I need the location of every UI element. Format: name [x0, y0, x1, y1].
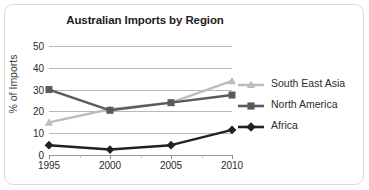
x-tickmark-2000	[110, 155, 111, 159]
series-south-east-asia	[45, 77, 236, 126]
legend-marker-triangle-icon	[238, 79, 264, 91]
x-tick-label-2005: 2005	[160, 160, 182, 171]
data-point-marker	[168, 99, 175, 106]
data-point-marker	[229, 92, 236, 99]
x-tickmark-2005	[171, 155, 172, 159]
x-tickmark-2010	[232, 155, 233, 159]
legend-label-north-america: North America	[271, 98, 338, 110]
x-tick-label-2000: 2000	[99, 160, 121, 171]
y-tick-label-0: 0	[38, 150, 44, 161]
series-africa	[45, 126, 237, 154]
y-tick-label-10: 10	[33, 128, 44, 139]
y-tick-label-50: 50	[33, 41, 44, 52]
legend-swatch-diamond-icon	[238, 119, 264, 131]
legend-label-africa: Africa	[271, 119, 298, 131]
x-tickmark-minor-1	[80, 155, 81, 158]
y-tick-label-40: 40	[33, 62, 44, 73]
series-line	[49, 81, 232, 122]
legend-label-south-east-asia: South East Asia	[271, 77, 345, 89]
legend-marker-diamond-icon	[238, 121, 264, 133]
legend-item-south-east-asia[interactable]: South East Asia	[238, 72, 362, 93]
data-point-marker	[106, 145, 115, 154]
plot-area: 50 40 30 20 10 0 1995 2000 2005 2010	[49, 46, 232, 155]
series-line	[49, 90, 232, 111]
legend-item-africa[interactable]: Africa	[238, 114, 362, 135]
y-tick-label-30: 30	[33, 84, 44, 95]
chart-title: Australian Imports by Region	[0, 14, 290, 26]
series-plot	[49, 46, 232, 155]
x-tickmark-1995	[49, 155, 50, 159]
x-tickmark-minor-2	[141, 155, 142, 158]
chart-legend: South East Asia North America Africa	[238, 72, 362, 135]
legend-marker-square-icon	[238, 100, 264, 112]
x-tickmark-minor-3	[202, 155, 203, 158]
series-line	[49, 130, 232, 150]
x-tick-label-2010: 2010	[221, 160, 243, 171]
data-point-marker	[107, 107, 114, 114]
legend-item-north-america[interactable]: North America	[238, 93, 362, 114]
data-point-marker	[167, 141, 176, 150]
legend-swatch-square-icon	[238, 98, 264, 110]
y-tick-label-20: 20	[33, 106, 44, 117]
legend-swatch-triangle-icon	[238, 77, 264, 89]
data-point-marker	[46, 86, 53, 93]
x-tick-label-1995: 1995	[38, 160, 60, 171]
chart-figure: Australian Imports by Region % of Import…	[0, 0, 369, 190]
y-axis-label: % of Imports	[7, 49, 19, 119]
